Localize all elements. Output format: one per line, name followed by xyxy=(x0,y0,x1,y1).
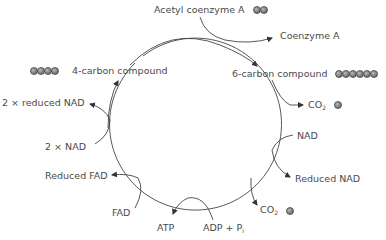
label-acetyl-coa: Acetyl coenzyme A xyxy=(154,5,245,15)
arrow-fad xyxy=(112,174,141,208)
carbon-atom xyxy=(334,101,342,109)
cycle-ring xyxy=(110,38,282,210)
label-co2-1: CO2 xyxy=(308,100,326,111)
label-coenzyme-a: Coenzyme A xyxy=(280,31,340,41)
arrow-co2-1 xyxy=(272,80,303,105)
arrow-acetyl-in xyxy=(200,17,272,42)
label-fad: FAD xyxy=(112,208,130,218)
label-four-carbon: 4-carbon compound xyxy=(72,66,168,76)
carbon-atom xyxy=(370,70,378,78)
carbon-atom xyxy=(260,6,268,14)
label-co2-2: CO2 xyxy=(260,205,278,216)
label-reduced-fad: Reduced FAD xyxy=(45,171,108,181)
co2-subscript: 2 xyxy=(274,209,278,216)
six-carbon-molecule xyxy=(335,70,377,78)
label-reduced-nad: Reduced NAD xyxy=(295,174,360,184)
adp-text: ADP + P xyxy=(203,222,242,233)
label-adp-pi: ADP + Pi xyxy=(203,223,244,234)
co2-text: CO xyxy=(308,99,322,110)
co2-1-molecule xyxy=(334,101,341,109)
arrow-2nad xyxy=(90,104,110,144)
carbon-atom xyxy=(286,207,294,215)
co2-subscript: 2 xyxy=(322,104,326,111)
co2-text: CO xyxy=(260,204,274,215)
carbon-atom xyxy=(51,67,59,75)
co2-2-molecule xyxy=(286,207,293,215)
label-two-reduced-nad: 2 × reduced NAD xyxy=(2,98,85,108)
acetyl-coa-molecule xyxy=(253,6,267,14)
pi-subscript: i xyxy=(242,227,244,234)
four-carbon-molecule xyxy=(30,67,58,75)
label-six-carbon: 6-carbon compound xyxy=(232,69,328,79)
arrow-co2-2 xyxy=(251,178,257,205)
label-nad: NAD xyxy=(297,131,318,141)
label-two-nad: 2 × NAD xyxy=(45,142,86,152)
label-atp: ATP xyxy=(157,223,174,233)
